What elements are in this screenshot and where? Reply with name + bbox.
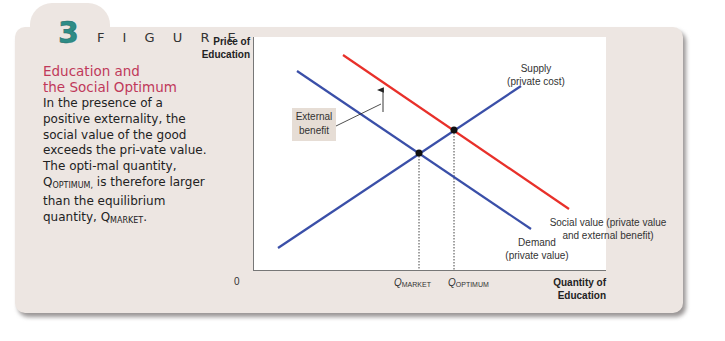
external-benefit-line1: External xyxy=(292,110,336,124)
supply-label-line1: Supply xyxy=(496,62,576,75)
demand-label: Demand (private value) xyxy=(492,236,582,262)
demand-label-line2: (private value) xyxy=(492,249,582,262)
optimum-equilibrium-point xyxy=(451,127,458,134)
market-equilibrium-point xyxy=(416,150,423,157)
chart-svg xyxy=(0,0,725,341)
demand-curve xyxy=(297,71,531,229)
external-benefit-line2: benefit xyxy=(292,124,336,138)
supply-label: Supply (private cost) xyxy=(496,62,576,88)
external-benefit-label: External benefit xyxy=(292,108,336,141)
demand-label-line1: Demand xyxy=(492,236,582,249)
supply-label-line2: (private cost) xyxy=(496,75,576,88)
social-value-label-line1: Social value (private value xyxy=(538,216,678,229)
